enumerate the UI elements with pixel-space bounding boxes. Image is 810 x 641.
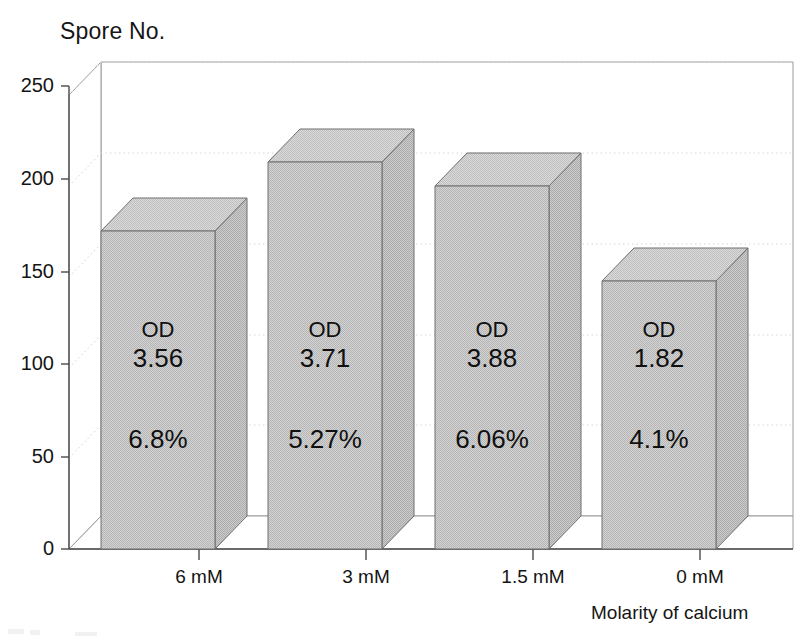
annotation-od-label: OD — [101, 316, 215, 343]
y-tick-label-50: 50 — [8, 445, 54, 468]
y-tick-label-0: 0 — [8, 537, 54, 560]
y-tick-label-250: 250 — [8, 74, 54, 97]
bar-annotation-6mM: OD 3.56 6.8% — [101, 316, 215, 455]
plot-left-wall — [69, 62, 101, 549]
annotation-percent: 6.8% — [101, 424, 215, 455]
bar-side-face — [382, 129, 414, 549]
scan-artifact — [8, 629, 24, 634]
annotation-od-label: OD — [268, 316, 382, 343]
chart-title: Spore No. — [60, 18, 165, 45]
chart-container: Spore No. 250 200 150 100 50 0 6 mM 3 mM… — [0, 0, 810, 641]
scan-artifact — [75, 632, 97, 636]
bar-annotation-1.5mM: OD 3.88 6.06% — [435, 316, 549, 455]
bar-side-face — [716, 248, 748, 549]
annotation-percent: 4.1% — [602, 424, 716, 455]
annotation-od-value: 3.56 — [101, 343, 215, 374]
bar-side-face — [549, 153, 581, 549]
bar-annotation-0mM: OD 1.82 4.1% — [602, 316, 716, 455]
x-axis — [69, 549, 793, 560]
x-tick-label-3mM: 3 mM — [286, 566, 446, 588]
bar-annotation-3mM: OD 3.71 5.27% — [268, 316, 382, 455]
scan-artifact — [30, 630, 40, 635]
y-tick-label-200: 200 — [8, 167, 54, 190]
x-tick-label-1.5mM: 1.5 mM — [453, 566, 613, 588]
annotation-percent: 5.27% — [268, 424, 382, 455]
annotation-od-value: 1.82 — [602, 343, 716, 374]
y-tick-label-150: 150 — [8, 260, 54, 283]
annotation-od-value: 3.71 — [268, 343, 382, 374]
x-tick-label-6mM: 6 mM — [119, 566, 279, 588]
y-axis — [61, 86, 69, 549]
x-axis-title: Molarity of calcium — [591, 602, 748, 624]
annotation-od-label: OD — [435, 316, 549, 343]
x-tick-label-0mM: 0 mM — [620, 566, 780, 588]
annotation-od-value: 3.88 — [435, 343, 549, 374]
y-tick-label-100: 100 — [8, 352, 54, 375]
annotation-od-label: OD — [602, 316, 716, 343]
annotation-percent: 6.06% — [435, 424, 549, 455]
bar-side-face — [215, 198, 247, 549]
